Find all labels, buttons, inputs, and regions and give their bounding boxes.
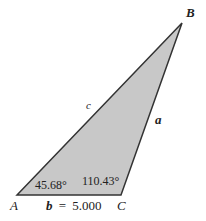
angle-c-label: 110.43° xyxy=(82,175,119,187)
vertex-label-a: A xyxy=(10,199,18,212)
triangle-abc xyxy=(17,23,182,195)
side-b-name: b xyxy=(46,198,53,213)
side-label-c: c xyxy=(86,100,91,111)
side-b-value: 5.000 xyxy=(72,198,101,213)
side-label-b: b = 5.000 xyxy=(46,199,102,212)
vertex-label-b: B xyxy=(186,6,195,19)
vertex-label-c: C xyxy=(117,199,126,212)
side-b-equals: = xyxy=(59,198,66,213)
side-label-a: a xyxy=(155,113,162,126)
angle-a-label: 45.68° xyxy=(35,179,67,191)
